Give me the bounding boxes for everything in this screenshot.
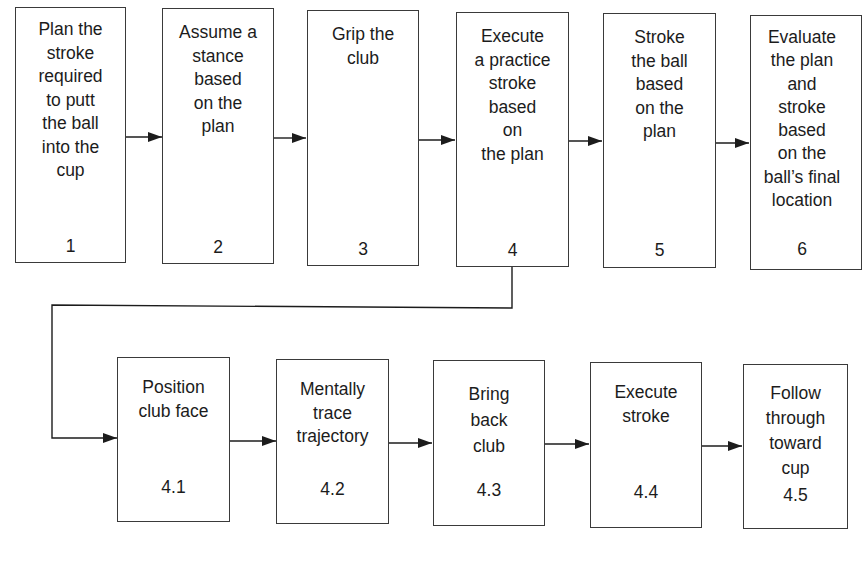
step-1-label: Plan the stroke required to putt the bal… [16,18,125,183]
substep-4.4-label: Execute stroke [591,381,701,428]
step-2-box: Assume a stance based on the plan 2 [162,8,274,264]
substep-4.5-box: Follow through toward cup 4.5 [743,364,848,529]
step-5-label: Stroke the ball based on the plan [604,26,715,144]
step-6-number: 6 [751,238,853,260]
step-3-number: 3 [308,238,418,260]
step-1-number: 1 [16,235,125,257]
substep-4.2-number: 4.2 [277,478,388,500]
substep-4.2-label: Mentally trace trajectory [277,378,388,449]
substep-4.4-number: 4.4 [591,481,701,503]
substep-4.2-box: Mentally trace trajectory 4.2 [276,359,389,524]
substep-4.1-label: Position club face [118,376,229,423]
step-5-number: 5 [604,239,715,261]
substep-4.1-box: Position club face 4.1 [117,357,230,522]
substep-4.1-number: 4.1 [118,476,229,498]
step-2-number: 2 [163,236,273,258]
substep-4.3-label: Bring back club [434,381,544,459]
substep-4.3-box: Bring back club 4.3 [433,360,545,526]
step-3-box: Grip the club 3 [307,10,419,266]
step-4-label: Execute a practice stroke based on the p… [457,25,568,166]
step-1-box: Plan the stroke required to putt the bal… [15,7,126,263]
step-4-number: 4 [457,239,568,261]
step-5-box: Stroke the ball based on the plan 5 [603,13,716,268]
step-2-label: Assume a stance based on the plan [163,21,273,139]
step-6-box: Evaluate the plan and stroke based on th… [750,15,862,270]
substep-4.3-number: 4.3 [434,479,544,501]
substep-4.5-number: 4.5 [744,484,847,506]
step-4-box: Execute a practice stroke based on the p… [456,12,569,267]
substep-4.4-box: Execute stroke 4.4 [590,362,702,528]
step-3-label: Grip the club [308,23,418,70]
substep-4.5-label: Follow through toward cup [744,381,847,481]
step-6-label: Evaluate the plan and stroke based on th… [751,26,853,212]
